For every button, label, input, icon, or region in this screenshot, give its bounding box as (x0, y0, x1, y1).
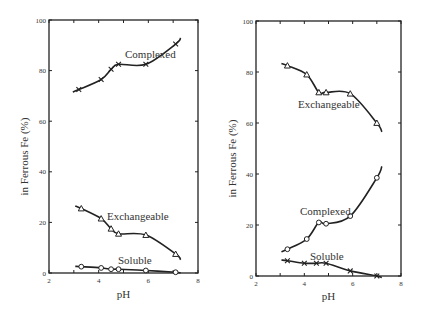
series-line-soluble (281, 260, 381, 277)
y-tick-label: 80 (39, 67, 47, 75)
chart-panel-right: 2468020406080100pHin Ferrous Fe (%)Excha… (226, 18, 403, 303)
chart-panel-left: 2468020406080100pHin Ferrous Fe (%)Compl… (18, 17, 200, 301)
y-tick-label: 0 (43, 270, 47, 278)
y-tick-label: 20 (246, 222, 254, 230)
marker-circle-icon (99, 266, 104, 271)
y-tick-label: 100 (243, 18, 254, 26)
marker-circle-icon (79, 264, 84, 269)
y-tick-label: 60 (246, 120, 254, 128)
marker-circle-icon (173, 270, 178, 275)
y-tick-label: 0 (250, 273, 254, 281)
marker-circle-icon (143, 268, 148, 273)
x-tick-label: 4 (303, 280, 307, 288)
x-tick-label: 2 (254, 280, 258, 288)
marker-x-icon (99, 77, 104, 82)
marker-circle-icon (304, 237, 309, 242)
series-label-complexed: Complexed (125, 48, 176, 60)
x-tick-label: 2 (47, 277, 51, 285)
series-label-exchangeable: Exchangeable (298, 98, 360, 110)
marker-circle-icon (116, 267, 121, 272)
x-tick-label: 6 (147, 277, 151, 285)
series-label-complexed: Complexed (300, 205, 351, 217)
x-tick-label: 4 (97, 277, 101, 285)
marker-circle-icon (374, 175, 379, 180)
x-axis-label: pH (117, 288, 131, 300)
y-axis-label: in Ferrous Fe (%) (18, 117, 31, 195)
x-axis-label: pH (322, 290, 336, 302)
series-label-soluble: Soluble (118, 254, 152, 266)
marker-x-icon (173, 42, 178, 47)
y-tick-label: 20 (39, 219, 47, 227)
marker-x-icon (109, 67, 114, 72)
series-line-soluble (75, 266, 180, 272)
plot-frame (256, 21, 401, 276)
y-tick-label: 40 (246, 171, 254, 179)
figure: 2468020406080100pHin Ferrous Fe (%)Compl… (0, 0, 424, 318)
x-tick-label: 8 (399, 280, 403, 288)
series-label-exchangeable: Exchangeable (107, 210, 169, 222)
marker-circle-icon (285, 247, 290, 252)
marker-circle-icon (316, 220, 321, 225)
x-tick-label: 8 (196, 277, 200, 285)
x-tick-label: 6 (351, 280, 355, 288)
y-tick-label: 60 (39, 118, 47, 126)
y-tick-label: 80 (246, 69, 254, 77)
marker-circle-icon (324, 221, 329, 226)
y-tick-label: 100 (36, 17, 47, 25)
marker-circle-icon (109, 267, 114, 272)
series-line-complexed (73, 38, 181, 92)
y-axis-label: in Ferrous Fe (%) (226, 119, 239, 197)
series-label-soluble: Soluble (310, 250, 344, 262)
y-tick-label: 40 (39, 168, 47, 176)
